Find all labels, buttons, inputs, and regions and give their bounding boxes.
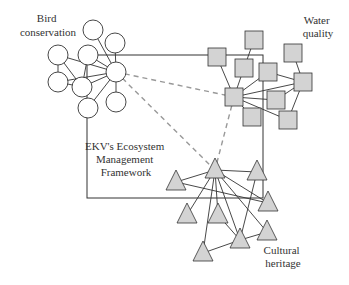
cultural-heritage-edge [176, 182, 268, 203]
water-quality-node-square-icon [245, 31, 263, 49]
bird-conservation-node-circle-icon [78, 45, 98, 65]
cultural-heritage-node-triangle-icon [247, 160, 267, 180]
water-quality-node-square-icon [267, 91, 285, 109]
cultural-heritage-node-triangle-icon [208, 203, 228, 223]
water-quality-node-square-icon [208, 48, 226, 66]
dashed-link [116, 72, 234, 97]
bird-conservation-label: Bird conservation [20, 12, 77, 38]
water-quality-node-square-icon [279, 111, 297, 129]
bird-conservation-node-circle-icon [105, 33, 125, 53]
dashed-link [215, 97, 234, 170]
bird-conservation-node-circle-icon [48, 72, 68, 92]
ecosystem-network-diagram: Bird conservation Water quality Cultural… [0, 0, 349, 285]
cultural-heritage-hub-node-triangle-icon [205, 158, 225, 178]
water-quality-label: Water quality [303, 14, 334, 39]
water-quality-node-square-icon [284, 44, 302, 62]
water-quality-node-square-icon [235, 59, 253, 77]
cultural-heritage-edge [240, 172, 257, 240]
bird-conservation-hub-node-circle-icon [106, 62, 126, 82]
water-quality-node-square-icon [243, 108, 261, 126]
cultural-heritage-edge [203, 170, 215, 253]
bird-conservation-node-circle-icon [72, 77, 92, 97]
bird-conservation-node-circle-icon [106, 92, 126, 112]
bird-conservation-node-circle-icon [48, 45, 68, 65]
cultural-heritage-node-triangle-icon [177, 203, 197, 223]
bird-conservation-node-circle-icon [78, 98, 98, 118]
framework-label: EKV's Ecosystem Management Framework [85, 140, 167, 178]
bird-conservation-node-circle-icon [83, 20, 103, 40]
water-quality-node-square-icon [294, 73, 312, 91]
cultural-heritage-label: Cultural heritage [264, 244, 303, 269]
water-quality-hub-node-square-icon [225, 88, 243, 106]
water-quality-node-square-icon [259, 63, 277, 81]
